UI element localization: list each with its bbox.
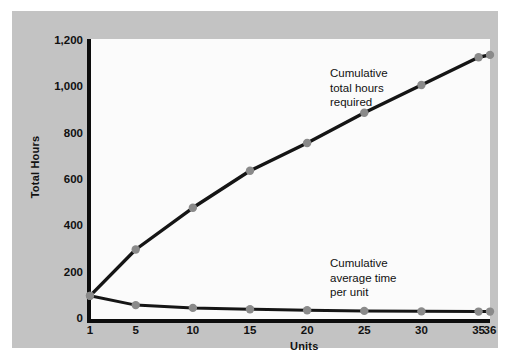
x-axis-tick-label: 10 <box>186 325 199 337</box>
x-axis-tick-label: 1 <box>87 325 93 337</box>
x-axis-tick-label: 15 <box>244 325 257 337</box>
chart-figure: 02004006008001,0001,200 1510152025303536… <box>0 0 514 359</box>
x-axis-tick-label: 36 <box>484 325 497 337</box>
x-axis-tick-label: 30 <box>415 325 428 337</box>
x-axis-tick-labels: 1510152025303536 <box>12 11 498 348</box>
x-axis-tick-label: 20 <box>301 325 314 337</box>
x-axis-title: Units <box>290 340 319 352</box>
x-axis-tick-label: 5 <box>133 325 139 337</box>
y-axis-title: Total Hours <box>29 122 41 212</box>
annotation-cumulative-total-hours: Cumulative total hours required <box>330 66 388 110</box>
x-axis-tick-label: 25 <box>358 325 371 337</box>
chart-panel: 02004006008001,0001,200 1510152025303536… <box>12 11 498 348</box>
annotation-cumulative-average-time: Cumulative average time per unit <box>330 256 396 300</box>
